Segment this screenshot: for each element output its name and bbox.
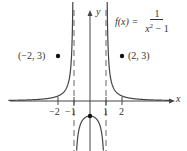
tick-label: 2 (119, 106, 124, 117)
formula-fraction: 1 x2 − 1 (143, 8, 171, 35)
y-axis-label: y (96, 6, 100, 17)
function-formula: f(x) = 1 x2 − 1 (115, 8, 171, 35)
formula-numerator: 1 (150, 8, 163, 20)
point-label: (−2, 3) (18, 50, 45, 61)
denominator-rest: − 1 (153, 23, 169, 34)
data-point (120, 54, 124, 58)
tick-label: −2 (49, 106, 60, 117)
x-axis-label: x (176, 93, 180, 104)
formula-lhs: f(x) = (115, 16, 138, 27)
data-point (88, 114, 92, 118)
x-axis-arrow-icon (169, 99, 175, 104)
tick-label: 1 (103, 106, 108, 117)
point-label: (2, 3) (128, 50, 150, 61)
tick-label: −1 (65, 106, 76, 117)
y-axis-arrow-icon (88, 10, 93, 16)
data-point (56, 54, 60, 58)
formula-denominator: x2 − 1 (143, 20, 171, 35)
